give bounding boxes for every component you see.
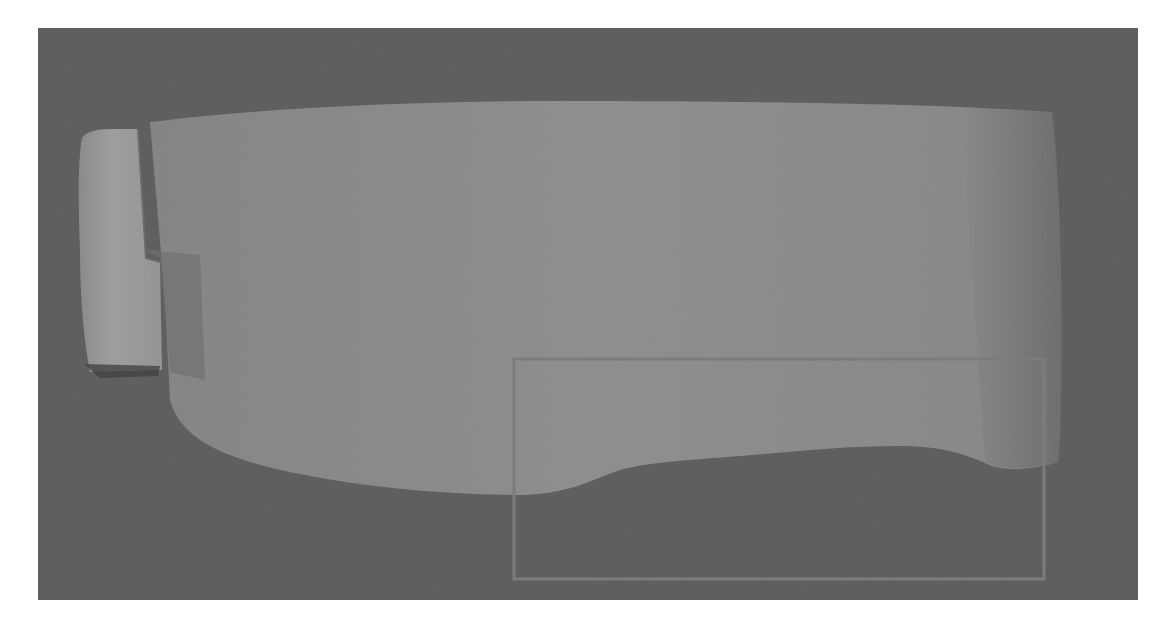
- scan-image: [0, 0, 1170, 630]
- image-description: Grayscale scanned image showing a large …: [0, 0, 1, 1]
- image-stage: Grayscale scanned image showing a large …: [0, 0, 1170, 630]
- body-shape: [150, 101, 1062, 495]
